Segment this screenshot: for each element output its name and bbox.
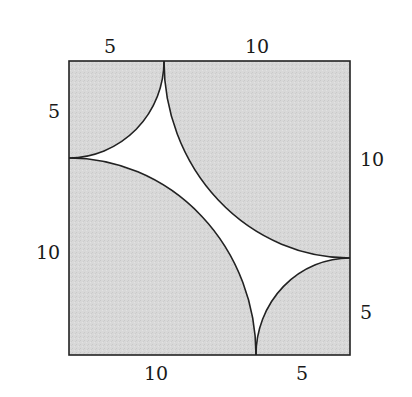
- label-left-bottom: 10: [36, 241, 60, 263]
- label-left-top: 5: [48, 100, 60, 122]
- label-top-right: 10: [245, 35, 269, 57]
- label-right-bottom: 5: [360, 301, 372, 323]
- label-bottom-right: 5: [296, 362, 308, 384]
- label-top-left: 5: [104, 35, 116, 57]
- label-bottom-left: 10: [144, 362, 168, 384]
- geometry-figure: 5 10 5 10 10 5 10 5: [0, 0, 412, 397]
- label-right-top: 10: [360, 148, 384, 170]
